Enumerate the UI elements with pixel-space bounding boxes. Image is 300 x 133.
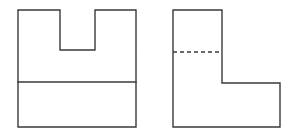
front-view xyxy=(18,10,136,127)
orthographic-drawing xyxy=(0,0,300,133)
side-view-outline xyxy=(173,10,280,127)
side-view xyxy=(173,10,280,127)
front-view-outline xyxy=(18,10,136,127)
drawing-canvas xyxy=(0,0,300,133)
